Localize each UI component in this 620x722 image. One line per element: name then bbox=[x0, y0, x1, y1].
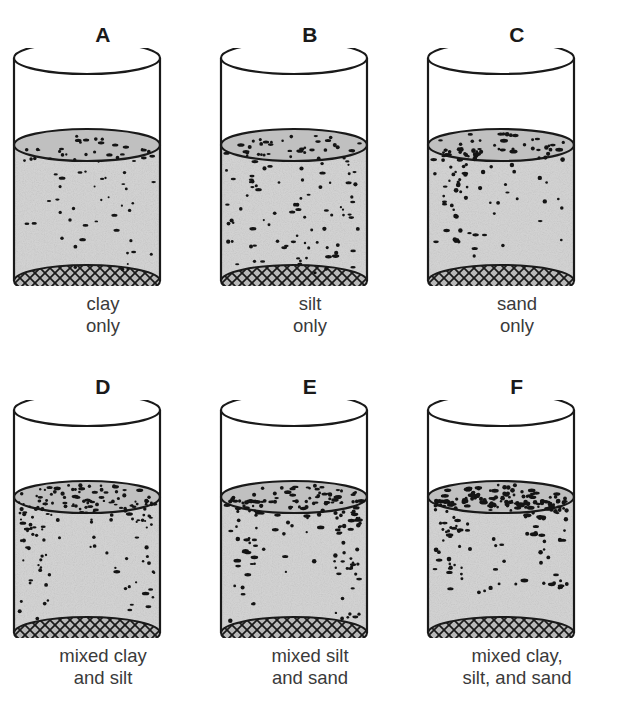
panel-caption: sandonly bbox=[414, 286, 620, 337]
beaker bbox=[414, 400, 620, 638]
panel-letter: D bbox=[0, 374, 206, 400]
caption-line: and silt bbox=[0, 667, 206, 689]
beaker-rim bbox=[221, 48, 367, 74]
beaker bbox=[207, 400, 413, 638]
panel-letter: E bbox=[207, 374, 413, 400]
caption-line: only bbox=[207, 315, 413, 337]
beaker-panel-e: Emixed siltand sand bbox=[207, 374, 413, 689]
water-surface bbox=[221, 481, 367, 513]
panel-caption: mixed siltand sand bbox=[207, 638, 413, 689]
caption-line: and sand bbox=[207, 667, 413, 689]
beaker-illustration bbox=[414, 400, 620, 638]
beaker-rim bbox=[221, 400, 367, 426]
beaker-rim bbox=[14, 400, 160, 426]
beaker bbox=[414, 48, 620, 286]
beaker-illustration bbox=[0, 48, 206, 286]
water-surface bbox=[14, 129, 160, 161]
beaker-rim bbox=[14, 48, 160, 74]
beaker-panel-c: Csandonly bbox=[414, 22, 620, 337]
beaker bbox=[0, 48, 206, 286]
panel-caption: clayonly bbox=[0, 286, 206, 337]
beaker-panel-d: Dmixed clayand silt bbox=[0, 374, 206, 689]
beaker-illustration bbox=[207, 400, 413, 638]
caption-line: mixed silt bbox=[207, 645, 413, 667]
caption-line: clay bbox=[0, 293, 206, 315]
beaker bbox=[207, 48, 413, 286]
beaker-panel-a: Aclayonly bbox=[0, 22, 206, 337]
beaker-rim bbox=[428, 48, 574, 74]
beaker-rim bbox=[428, 400, 574, 426]
beaker-panel-f: Fmixed clay,silt, and sand bbox=[414, 374, 620, 689]
beaker bbox=[0, 400, 206, 638]
settling-beakers-figure: AclayonlyBsiltonlyCsandonlyDmixed clayan… bbox=[0, 0, 620, 722]
beaker-illustration bbox=[207, 48, 413, 286]
caption-line: mixed clay bbox=[0, 645, 206, 667]
panel-letter: B bbox=[207, 22, 413, 48]
caption-line: only bbox=[0, 315, 206, 337]
caption-line: mixed clay, bbox=[414, 645, 620, 667]
beaker-illustration bbox=[0, 400, 206, 638]
caption-line: silt, and sand bbox=[414, 667, 620, 689]
panel-letter: A bbox=[0, 22, 206, 48]
panel-caption: siltonly bbox=[207, 286, 413, 337]
panel-letter: C bbox=[414, 22, 620, 48]
panel-caption: mixed clayand silt bbox=[0, 638, 206, 689]
panel-letter: F bbox=[414, 374, 620, 400]
panel-caption: mixed clay,silt, and sand bbox=[414, 638, 620, 689]
caption-line: only bbox=[414, 315, 620, 337]
beaker-panel-b: Bsiltonly bbox=[207, 22, 413, 337]
caption-line: sand bbox=[414, 293, 620, 315]
caption-line: silt bbox=[207, 293, 413, 315]
beaker-illustration bbox=[414, 48, 620, 286]
